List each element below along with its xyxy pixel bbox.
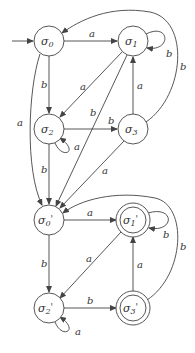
state-s0: σ0 <box>34 26 64 56</box>
edge-label: a <box>137 259 143 270</box>
edge-label: b <box>41 258 47 269</box>
edge-label: b <box>180 61 186 72</box>
edge-label: b <box>108 115 114 126</box>
edge-label: b <box>180 241 186 252</box>
edge-label: a <box>74 141 80 152</box>
edge-label: a <box>102 165 108 176</box>
edge-label: b <box>166 48 172 59</box>
edge-label: b <box>90 107 96 118</box>
edge-s1-self <box>146 31 165 48</box>
edge-label: a <box>80 81 86 92</box>
state-s2: σ2 <box>34 114 64 144</box>
edge-label: b <box>163 229 169 240</box>
edge-label: b <box>41 79 47 90</box>
edge-s1p-self <box>148 212 168 229</box>
edge-label: b <box>87 295 93 306</box>
state-s3-prime-accepting: σ3' <box>116 291 150 325</box>
edge-s3-s0 <box>62 10 178 122</box>
state-s1-prime-accepting: σ1' <box>116 203 150 237</box>
edge-label: a <box>137 80 143 91</box>
automaton-diagram: a b a b a b b a b a b a a b b a b a a b … <box>0 0 195 353</box>
edge-s3-s0p <box>60 141 124 208</box>
edge-label: a <box>86 253 92 264</box>
edge-s1p-s2p <box>60 232 121 298</box>
edge-label: a <box>17 117 23 128</box>
edge-label: a <box>89 28 95 39</box>
state-s2-prime: σ2' <box>34 293 64 323</box>
edge-label: b <box>41 164 47 175</box>
state-s1: σ1 <box>118 26 148 56</box>
edge-s1-s0p <box>56 55 127 206</box>
state-s0-prime: σ0' <box>34 205 64 235</box>
edge-label: a <box>87 207 93 218</box>
edge-label: a <box>75 326 81 337</box>
state-s3: σ3 <box>118 114 148 144</box>
